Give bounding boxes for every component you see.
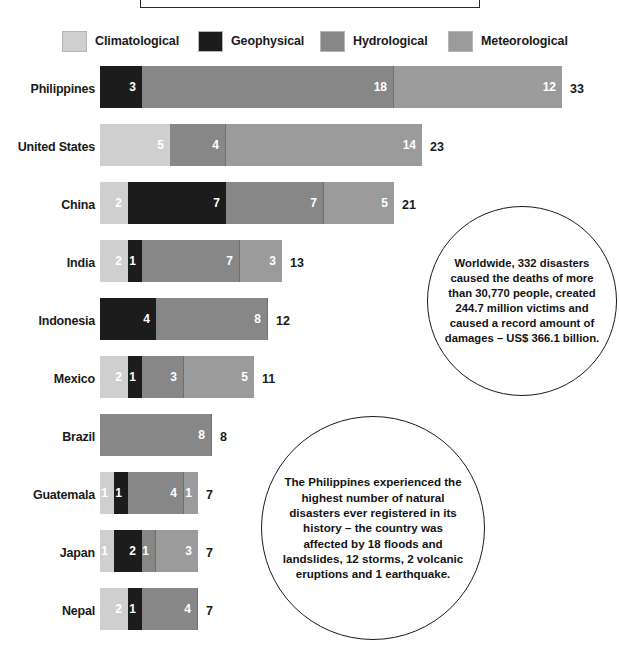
row-total: 23 <box>430 140 444 154</box>
bar-segment-value: 3 <box>269 255 282 267</box>
bar-segment-hydrological: 4 <box>170 124 226 166</box>
row-total: 33 <box>570 82 584 96</box>
bar-segment-value: 1 <box>101 545 114 557</box>
row-label-philippines: Philippines <box>0 82 95 96</box>
bar-segment-climatological: 2 <box>100 588 128 630</box>
legend-label: Climatological <box>95 34 179 48</box>
bar-segment-meteorological: 14 <box>226 124 422 166</box>
stacked-bar: 2135 <box>100 356 254 398</box>
bar-segment-value: 1 <box>129 603 142 615</box>
legend-item-meteorological: Meteorological <box>448 28 568 54</box>
bar-segment-meteorological: 5 <box>324 182 394 224</box>
chart-title-box <box>140 0 480 8</box>
row-label-china: China <box>0 198 95 212</box>
legend-swatch-meteorological <box>448 31 473 52</box>
bar-segment-climatological: 5 <box>100 124 170 166</box>
bar-segment-hydrological: 18 <box>142 66 394 108</box>
row-total: 7 <box>206 546 213 560</box>
bar-segment-value: 1 <box>101 487 114 499</box>
legend-item-geophysical: Geophysical <box>198 28 304 54</box>
bar-segment-value: 7 <box>213 197 226 209</box>
bar-segment-climatological: 2 <box>100 240 128 282</box>
bar-segment-geophysical: 3 <box>100 66 142 108</box>
bar-segment-hydrological: 8 <box>100 414 212 456</box>
row-total: 13 <box>290 256 304 270</box>
bar-segment-climatological: 1 <box>100 472 114 514</box>
bar-segment-meteorological: 1 <box>184 472 198 514</box>
bar-segment-hydrological: 8 <box>156 298 268 340</box>
bar-segment-meteorological: 12 <box>394 66 562 108</box>
bar-segment-value: 2 <box>115 255 128 267</box>
bar-segment-value: 18 <box>374 81 393 93</box>
stacked-bar: 1213 <box>100 530 198 572</box>
bar-segment-value: 2 <box>115 371 128 383</box>
bar-segment-hydrological: 4 <box>142 588 198 630</box>
legend-label: Hydrological <box>353 34 428 48</box>
bar-segment-hydrological: 4 <box>128 472 184 514</box>
bar-segment-value: 1 <box>129 371 142 383</box>
bar-segment-geophysical: 1 <box>128 588 142 630</box>
legend-swatch-geophysical <box>198 31 223 52</box>
bar-segment-hydrological: 7 <box>142 240 240 282</box>
bar-segment-value: 2 <box>115 197 128 209</box>
bar-segment-value: 3 <box>129 81 142 93</box>
row-total: 11 <box>262 372 275 386</box>
chart-legend: ClimatologicalGeophysicalHydrologicalMet… <box>0 28 619 54</box>
bar-segment-value: 7 <box>310 197 323 209</box>
bar-segment-geophysical: 1 <box>128 240 142 282</box>
stacked-bar: 31812 <box>100 66 562 108</box>
legend-label: Meteorological <box>481 34 568 48</box>
bar-segment-meteorological: 3 <box>240 240 282 282</box>
bar-segment-geophysical: 4 <box>100 298 156 340</box>
stacked-bar: 2775 <box>100 182 394 224</box>
row-total: 7 <box>206 604 213 618</box>
bar-segment-meteorological: 5 <box>184 356 254 398</box>
bar-segment-climatological: 1 <box>100 530 114 572</box>
callout-philippines: The Philippines experienced the highest … <box>261 416 485 640</box>
legend-label: Geophysical <box>231 34 304 48</box>
bar-segment-hydrological: 1 <box>142 530 156 572</box>
bar-segment-value: 7 <box>226 255 239 267</box>
bar-segment-geophysical: 7 <box>128 182 226 224</box>
row-total: 12 <box>276 314 290 328</box>
bar-segment-value: 1 <box>142 545 155 557</box>
bar-segment-hydrological: 7 <box>226 182 324 224</box>
row-label-mexico: Mexico <box>0 372 95 386</box>
bar-segment-value: 1 <box>185 487 198 499</box>
bar-segment-value: 5 <box>157 139 170 151</box>
row-total: 21 <box>402 198 416 212</box>
bar-segment-value: 1 <box>129 255 142 267</box>
bar-segment-value: 1 <box>115 487 128 499</box>
bar-segment-value: 8 <box>254 313 267 325</box>
bar-segment-value: 4 <box>170 487 183 499</box>
row-label-united-states: United States <box>0 140 95 154</box>
callout-worldwide-text: Worldwide, 332 disasters caused the deat… <box>428 256 616 345</box>
bar-segment-meteorological: 3 <box>156 530 198 572</box>
bar-segment-value: 12 <box>543 81 562 93</box>
bar-segment-value: 3 <box>185 545 198 557</box>
bar-segment-value: 4 <box>184 603 197 615</box>
legend-swatch-hydrological <box>320 31 345 52</box>
bar-segment-value: 5 <box>381 197 394 209</box>
bar-segment-hydrological: 3 <box>142 356 184 398</box>
row-total: 8 <box>220 430 227 444</box>
bar-segment-geophysical: 2 <box>114 530 142 572</box>
bar-segment-value: 8 <box>198 429 211 441</box>
stacked-bar: 8 <box>100 414 212 456</box>
legend-swatch-climatological <box>62 31 87 52</box>
bar-segment-value: 5 <box>241 371 254 383</box>
bar-segment-climatological: 2 <box>100 356 128 398</box>
callout-philippines-text: The Philippines experienced the highest … <box>262 474 484 581</box>
bar-segment-geophysical: 1 <box>128 356 142 398</box>
bar-segment-climatological: 2 <box>100 182 128 224</box>
stacked-bar: 5414 <box>100 124 422 166</box>
row-label-guatemala: Guatemala <box>0 488 95 502</box>
chart-row: United States541423 <box>0 118 619 176</box>
bar-segment-value: 4 <box>143 313 156 325</box>
bar-segment-value: 3 <box>170 371 183 383</box>
stacked-bar: 214 <box>100 588 198 630</box>
callout-worldwide: Worldwide, 332 disasters caused the deat… <box>427 206 617 396</box>
row-label-india: India <box>0 256 95 270</box>
bar-segment-value: 4 <box>212 139 225 151</box>
stacked-bar: 48 <box>100 298 268 340</box>
